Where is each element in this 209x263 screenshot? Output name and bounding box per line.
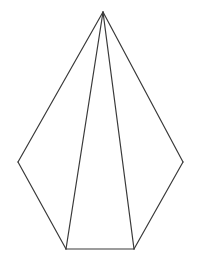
edge-left-vertex-to-bottom-left (18, 162, 66, 249)
edge-apex-to-bottom-right-vertex (103, 12, 134, 249)
edge-apex-to-bottom-left-vertex (66, 12, 103, 249)
edge-apex-to-right-vertex (103, 12, 183, 162)
edge-bottom-right-to-right-vertex (134, 162, 183, 249)
pyramid-outline-face (18, 12, 183, 249)
pyramid-diagram (0, 0, 209, 263)
edge-apex-to-left-vertex (18, 12, 103, 162)
figure-canvas (0, 0, 209, 263)
